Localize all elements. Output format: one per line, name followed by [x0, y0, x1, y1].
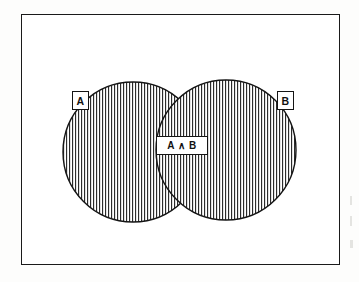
intersection-label: A ∧ B	[156, 136, 208, 155]
set-b-label: B	[277, 91, 294, 110]
scan-artifact	[350, 240, 353, 248]
scan-artifact	[350, 216, 352, 226]
set-a-label: A	[72, 91, 89, 110]
figure-root: A B A ∧ B	[0, 0, 359, 282]
scan-artifact	[350, 196, 352, 205]
